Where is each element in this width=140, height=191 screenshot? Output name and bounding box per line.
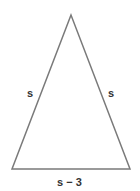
left-side-label: s [27, 88, 33, 99]
triangle-diagram [0, 0, 140, 191]
base-label: s − 3 [57, 177, 82, 188]
right-side-label: s [108, 88, 114, 99]
